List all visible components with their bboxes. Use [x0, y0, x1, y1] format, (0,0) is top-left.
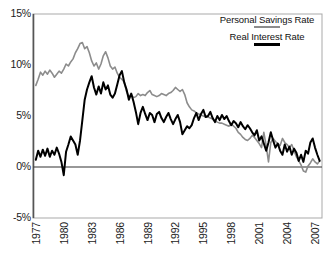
legend-swatch-interest	[254, 43, 280, 46]
x-tick-1992: 1992	[169, 222, 181, 262]
x-tick-1998: 1998	[225, 222, 237, 262]
x-tick-1986: 1986	[114, 222, 126, 262]
x-tick-1983: 1983	[86, 222, 98, 262]
legend-entry-interest: Real Interest Rate	[208, 31, 326, 46]
x-tick-label: 1983	[86, 222, 97, 245]
x-tick-label: 1980	[58, 222, 69, 245]
chart-legend: Personal Savings Rate Real Interest Rate	[208, 14, 326, 49]
x-tick-label: 1998	[226, 222, 237, 245]
chart-container: 15%10%5%0%-5% 19771980198319861989199219…	[0, 0, 333, 265]
y-tick-label: 5%	[1, 110, 31, 121]
y-tick-label: 15%	[1, 8, 31, 19]
legend-label-interest: Real Interest Rate	[208, 31, 326, 42]
x-tick-label: 2001	[254, 222, 265, 245]
y-tick-15pct: 15%	[0, 8, 31, 19]
x-tick-label: 2004	[282, 222, 293, 245]
y-tick-label: 0%	[1, 161, 31, 172]
legend-entry-savings: Personal Savings Rate	[208, 14, 326, 28]
y-tick-label: -5%	[1, 212, 31, 223]
x-tick-2004: 2004	[281, 222, 293, 262]
legend-swatch-savings	[254, 26, 280, 28]
x-tick-1995: 1995	[197, 222, 209, 262]
x-tick-1980: 1980	[58, 222, 70, 262]
x-tick-2001: 2001	[253, 222, 265, 262]
legend-label-savings: Personal Savings Rate	[208, 14, 326, 25]
x-tick-label: 2007	[310, 222, 321, 245]
y-tick-neg5pct: -5%	[0, 212, 31, 223]
y-tick-0pct: 0%	[0, 161, 31, 172]
y-tick-10pct: 10%	[0, 59, 31, 70]
y-tick-label: 10%	[1, 59, 31, 70]
x-tick-label: 1986	[114, 222, 125, 245]
x-tick-1989: 1989	[142, 222, 154, 262]
x-tick-label: 1977	[30, 222, 41, 245]
x-tick-1977: 1977	[30, 222, 42, 262]
x-tick-2007: 2007	[309, 222, 321, 262]
x-tick-label: 1995	[198, 222, 209, 245]
y-tick-5pct: 5%	[0, 110, 31, 121]
x-tick-label: 1989	[142, 222, 153, 245]
x-tick-label: 1992	[170, 222, 181, 245]
